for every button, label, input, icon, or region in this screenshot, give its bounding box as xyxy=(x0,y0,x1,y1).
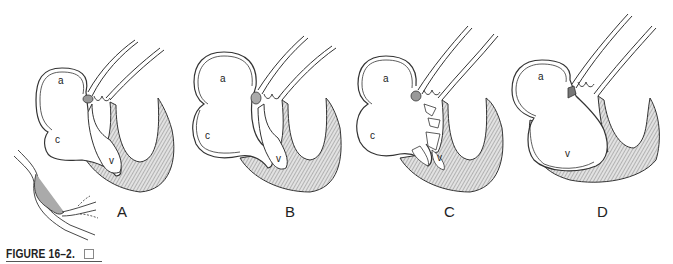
label-atrium-a: a xyxy=(58,75,64,86)
figure-caption: FIGURE 16–2. xyxy=(6,247,94,261)
label-c-wave-c: c xyxy=(370,130,375,141)
heart-diagram-b xyxy=(180,0,345,240)
panel-letter-c: C xyxy=(444,203,455,220)
heart-diagram-d xyxy=(500,0,673,240)
figure-16-2: a c v A a c v B xyxy=(0,0,673,240)
label-ventricle-a: v xyxy=(109,155,114,166)
label-c-wave-b: c xyxy=(205,130,210,141)
panel-d: a v D xyxy=(500,0,673,240)
panel-b: a c v B xyxy=(180,0,345,240)
label-c-wave-a: c xyxy=(55,134,60,145)
label-atrium-b: a xyxy=(220,73,226,84)
label-atrium-c: a xyxy=(383,73,389,84)
panel-letter-d: D xyxy=(597,203,608,220)
panel-c: a c v C xyxy=(340,0,505,240)
heart-diagram-a xyxy=(0,0,180,240)
panel-a: a c v A xyxy=(0,0,180,240)
caption-text: FIGURE 16–2. xyxy=(6,247,75,261)
label-ventricle-c: v xyxy=(437,152,442,163)
empty-square-icon xyxy=(84,249,94,259)
panel-letter-a: A xyxy=(117,203,127,220)
panel-letter-b: B xyxy=(285,203,295,220)
caption-underline xyxy=(6,261,102,262)
label-ventricle-d: v xyxy=(565,148,570,159)
label-atrium-d: a xyxy=(538,71,544,82)
label-ventricle-b: v xyxy=(276,153,281,164)
heart-diagram-c xyxy=(340,0,505,240)
